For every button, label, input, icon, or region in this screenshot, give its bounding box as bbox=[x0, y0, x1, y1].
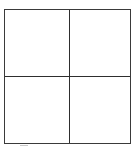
quadrant-bottom-left bbox=[5, 77, 69, 143]
quadrant-top-right bbox=[70, 10, 130, 76]
diagram-canvas bbox=[0, 0, 136, 149]
horizontal-divider bbox=[5, 76, 130, 77]
quadrant-top-left bbox=[5, 10, 69, 76]
faint-mark bbox=[20, 145, 28, 146]
quadrant-grid bbox=[4, 9, 131, 144]
quadrant-bottom-right bbox=[70, 77, 130, 143]
